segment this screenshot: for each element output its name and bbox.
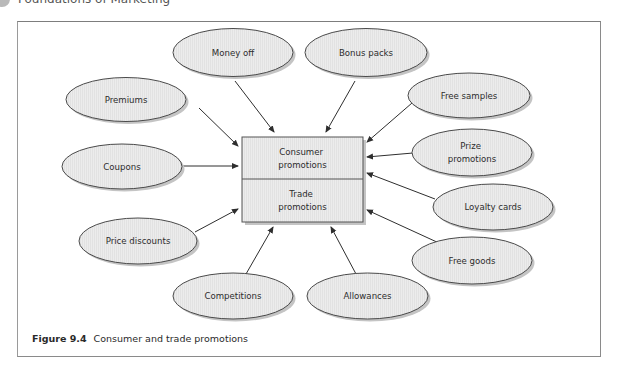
- node-price-discounts: Price discounts: [79, 218, 200, 267]
- node-free-samples: Free samples: [408, 73, 533, 121]
- arrow-price-discounts: [195, 209, 238, 232]
- arrow-competitions: [246, 227, 273, 274]
- arrow-prize-promotions: [367, 153, 413, 157]
- node-label-price-discounts: Price discounts: [106, 236, 171, 246]
- node-competitions: Competitions: [173, 273, 296, 322]
- arrow-free-goods: [367, 210, 439, 243]
- arrow-premiums: [199, 108, 238, 146]
- promotions-diagram: Consumer promotions Trade promotions Mon…: [0, 0, 621, 374]
- node-prize-promotions: Prize promotions: [412, 129, 535, 179]
- node-free-goods: Free goods: [412, 237, 535, 287]
- node-allowances: Allowances: [307, 273, 431, 322]
- node-label-free-goods: Free goods: [449, 256, 496, 266]
- arrow-bonus-packs: [326, 81, 355, 132]
- node-premiums: Premiums: [66, 78, 189, 125]
- center-box: Consumer promotions Trade promotions: [242, 137, 366, 225]
- node-coupons: Coupons: [62, 144, 185, 192]
- arrow-free-samples: [367, 103, 412, 142]
- node-label-premiums: Premiums: [105, 95, 148, 105]
- arrow-allowances: [331, 227, 356, 274]
- node-money-off: Money off: [173, 29, 296, 80]
- figure-number: Figure 9.4: [32, 333, 87, 344]
- node-label-money-off: Money off: [212, 48, 255, 58]
- arrow-loyalty-cards: [367, 173, 435, 199]
- node-label-allowances: Allowances: [343, 291, 392, 301]
- node-bonus-packs: Bonus packs: [305, 29, 430, 80]
- node-loyalty-cards: Loyalty cards: [433, 184, 556, 233]
- node-label-competitions: Competitions: [204, 291, 262, 301]
- node-label-coupons: Coupons: [103, 162, 141, 172]
- node-label-bonus-packs: Bonus packs: [339, 48, 394, 58]
- figure-caption: Figure 9.4 Consumer and trade promotions: [32, 333, 248, 344]
- node-label-free-samples: Free samples: [441, 91, 498, 101]
- figure-caption-text: Consumer and trade promotions: [94, 333, 248, 344]
- node-label-loyalty-cards: Loyalty cards: [464, 202, 522, 212]
- arrow-money-off: [235, 81, 274, 132]
